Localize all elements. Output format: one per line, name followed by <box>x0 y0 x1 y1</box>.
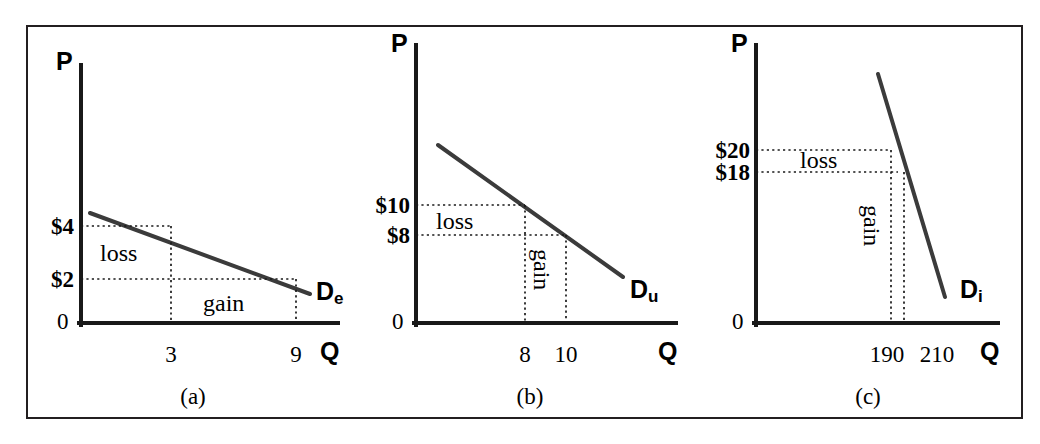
gain-area-label-b: gain <box>530 249 554 290</box>
y-axis-label-b: P <box>391 31 408 56</box>
demand-curve-label-du: Du <box>630 277 658 302</box>
demand-curve-label-di: Di <box>960 277 983 302</box>
price-tick-b-2: $8 <box>356 224 410 247</box>
figure-border: P Q $4 $2 0 3 9 loss gain De (a) <box>26 25 1023 419</box>
origin-label-c: 0 <box>732 310 744 333</box>
x-axis-label-b: Q <box>658 339 677 364</box>
loss-area-label-a: loss <box>100 241 137 265</box>
x-axis-label-a: Q <box>320 339 339 364</box>
origin-label-a: 0 <box>57 310 69 333</box>
qty-tick-b-2: 10 <box>546 343 586 366</box>
demand-subscript-b: u <box>648 287 658 306</box>
panel-b-unit-elastic: P Q $10 $8 0 8 10 loss gain Du (b) <box>358 27 688 421</box>
loss-area-label-c: loss <box>800 148 837 172</box>
panel-c-inelastic: P Q $20 $18 0 190 210 loss gain Di (c) <box>688 27 1025 421</box>
demand-letter-a: D <box>316 277 334 305</box>
panel-c-plot <box>688 27 1025 421</box>
demand-curve-label-de: De <box>316 279 344 304</box>
gain-area-label-c: gain <box>860 205 884 246</box>
loss-area-label-b: loss <box>436 209 473 233</box>
qty-tick-a-1: 3 <box>151 343 191 366</box>
qty-tick-c-2: 210 <box>912 343 962 366</box>
price-tick-a-1: $4 <box>32 215 74 238</box>
origin-label-b: 0 <box>392 310 404 333</box>
panel-caption-b: (b) <box>490 385 570 408</box>
price-tick-b-1: $10 <box>356 194 410 217</box>
qty-tick-a-2: 9 <box>276 343 316 366</box>
panel-a-elastic: P Q $4 $2 0 3 9 loss gain De (a) <box>28 27 358 421</box>
y-axis-label-c: P <box>731 31 748 56</box>
y-axis-label-a: P <box>56 49 73 74</box>
qty-tick-c-1: 190 <box>862 343 912 366</box>
demand-subscript-a: e <box>334 289 343 308</box>
figure-root: P Q $4 $2 0 3 9 loss gain De (a) <box>0 0 1040 444</box>
price-tick-a-2: $2 <box>32 268 74 291</box>
demand-letter-c: D <box>960 275 978 303</box>
demand-subscript-c: i <box>978 287 983 306</box>
panel-caption-c: (c) <box>828 385 908 408</box>
x-axis-label-c: Q <box>980 339 999 364</box>
panel-caption-a: (a) <box>153 385 233 408</box>
qty-tick-b-1: 8 <box>505 343 545 366</box>
demand-letter-b: D <box>630 275 648 303</box>
demand-curve-di <box>878 74 945 297</box>
price-tick-c-2: $18 <box>690 161 750 184</box>
gain-area-label-a: gain <box>203 291 244 315</box>
price-tick-c-1: $20 <box>690 139 750 162</box>
